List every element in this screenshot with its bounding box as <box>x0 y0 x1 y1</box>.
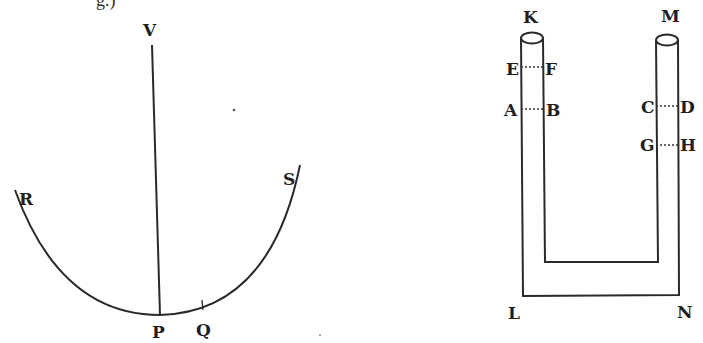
label-H: H <box>680 135 696 155</box>
pendulum-figure: V R S P Q <box>15 20 300 342</box>
label-V: V <box>142 20 157 40</box>
speck <box>319 334 321 336</box>
label-L: L <box>508 303 520 323</box>
label-C: C <box>641 97 655 117</box>
label-Q: Q <box>196 320 211 340</box>
vertical-line-VP <box>152 45 160 315</box>
label-N: N <box>677 302 693 322</box>
u-tube-figure: K M E F A B C D G H L N <box>503 6 696 323</box>
label-K: K <box>523 7 539 27</box>
top-text-fragment: g.) <box>96 0 116 11</box>
label-G: G <box>640 135 655 155</box>
stray-dot <box>233 109 236 112</box>
label-S: S <box>283 169 295 189</box>
label-P: P <box>152 322 165 342</box>
label-B: B <box>546 100 560 120</box>
label-A: A <box>503 100 518 120</box>
right-tube-opening <box>656 35 678 46</box>
label-R: R <box>19 189 34 209</box>
label-E: E <box>506 59 519 79</box>
label-F: F <box>545 59 557 79</box>
diagram-canvas: g.) V R S P Q K M E F A B C D G H <box>0 0 703 343</box>
label-M: M <box>661 6 680 26</box>
left-tube-opening <box>521 33 543 44</box>
label-D: D <box>680 97 695 117</box>
